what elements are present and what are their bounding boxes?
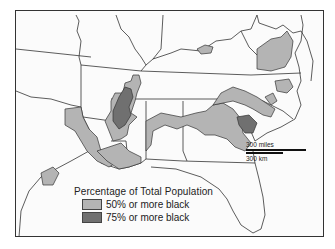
legend-item-50: 50% or more black <box>82 199 213 210</box>
scale-bar: 300 miles 300 km <box>246 141 306 162</box>
legend-item-75: 75% or more black <box>82 212 213 223</box>
legend-label-75: 75% or more black <box>106 212 189 223</box>
legend: Percentage of Total Population 50% or mo… <box>74 186 213 223</box>
legend-swatch-75 <box>82 212 102 223</box>
legend-swatch-50 <box>82 199 102 210</box>
scale-km-label: 300 km <box>246 155 306 162</box>
legend-label-50: 50% or more black <box>106 199 189 210</box>
scale-miles-bar <box>246 149 306 151</box>
scale-miles-label: 300 miles <box>246 141 306 148</box>
scale-km-bar <box>246 152 283 154</box>
legend-title: Percentage of Total Population <box>74 186 213 197</box>
